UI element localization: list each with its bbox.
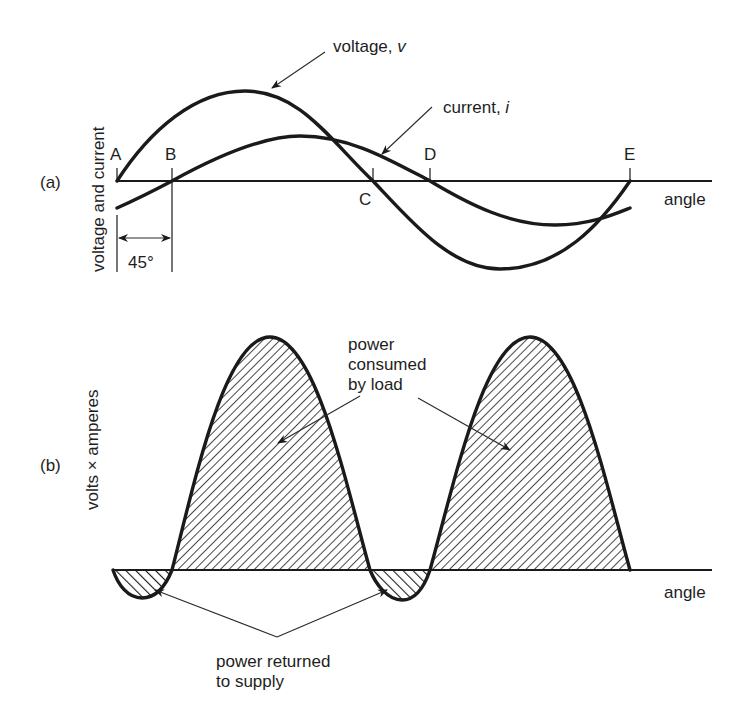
consumed-callout-line-2: consumed (348, 355, 426, 374)
panel-b: (b) volts × amperes angle power consumed… (40, 335, 712, 691)
point-e-label: E (624, 145, 635, 164)
returned-arrow-left (155, 590, 277, 637)
consumed-callout-line-3: by load (348, 375, 403, 394)
phasor-power-diagram: (a) voltage and current angle A B C D E … (0, 0, 748, 722)
phase-angle-label: 45° (128, 253, 154, 272)
panel-a-xlabel: angle (664, 190, 706, 209)
voltage-callout: voltage, v (333, 37, 407, 56)
point-c-label: C (359, 190, 371, 209)
point-b-label: B (165, 145, 176, 164)
voltage-callout-arrow (272, 52, 325, 88)
current-callout: current, i (443, 98, 510, 117)
point-d-label: D (424, 145, 436, 164)
returned-callout-line-1: power returned (216, 652, 330, 671)
voltage-curve (117, 91, 630, 269)
panel-a: (a) voltage and current angle A B C D E … (40, 37, 712, 272)
returned-callout-line-2: to supply (216, 672, 285, 691)
returned-arrow-right (277, 590, 387, 637)
consumed-callout-line-1: power (348, 335, 395, 354)
panel-a-tag: (a) (40, 173, 61, 192)
point-a-label: A (110, 145, 122, 164)
panel-b-ylabel: volts × amperes (83, 390, 102, 510)
panel-b-tag: (b) (40, 456, 61, 475)
panel-b-xlabel: angle (664, 583, 706, 602)
panel-a-ylabel: voltage and current (89, 126, 108, 272)
